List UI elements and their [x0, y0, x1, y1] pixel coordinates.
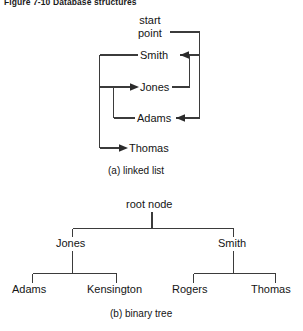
arrowhead-into-smith	[180, 51, 189, 58]
tree-edge-smith-to-children	[194, 251, 276, 283]
linked-list-node-jones: Jones	[140, 81, 169, 93]
start-point-label-line1: start	[138, 14, 162, 27]
tree-node-root: root node	[126, 198, 172, 210]
start-point-label: start point	[138, 14, 162, 40]
linked-list-node-adams: Adams	[137, 112, 171, 124]
arrowhead-into-thomas	[119, 144, 128, 151]
linked-list-node-thomas: Thomas	[129, 142, 169, 154]
caption-linked-list: (a) linked list	[108, 165, 164, 176]
figure-title: Figure 7-10 Database structures	[4, 0, 137, 7]
tree-node-adams: Adams	[12, 283, 46, 295]
tree-edge-jones-to-children	[33, 251, 117, 283]
tree-node-jones: Jones	[56, 237, 85, 249]
tree-node-thomas: Thomas	[251, 283, 291, 295]
tree-node-rogers: Rogers	[172, 283, 207, 295]
tree-edge-root-to-children	[73, 212, 234, 237]
link-smith-to-jones	[100, 55, 140, 91]
arrowhead-into-adams	[176, 114, 185, 121]
tree-node-kensington: Kensington	[87, 283, 142, 295]
arrowhead-into-jones	[130, 83, 139, 90]
link-to-thomas	[100, 55, 129, 152]
tree-node-smith: Smith	[218, 237, 246, 249]
link-adams-rail	[114, 87, 136, 118]
link-jones-rail	[172, 55, 190, 87]
caption-binary-tree: (b) binary tree	[110, 308, 172, 319]
link-to-adams	[176, 55, 200, 122]
linked-list-node-smith: Smith	[140, 49, 168, 61]
link-startpoint-to-smith	[170, 32, 200, 59]
figure-container: Figure 7-10 Database structures start po…	[0, 0, 303, 331]
start-point-label-line2: point	[138, 27, 162, 40]
